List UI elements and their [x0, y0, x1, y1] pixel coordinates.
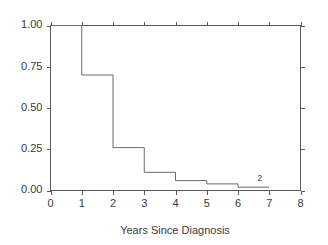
x-tick-label: 5 [204, 197, 210, 209]
survival-step-curve [51, 26, 270, 188]
censor-count-label: 2 [257, 173, 262, 183]
survival-chart-figure: 012345678 0.000.250.500.751.00 2 Years S… [0, 0, 328, 245]
axes-box-spines [51, 26, 301, 191]
y-tick-label: 0.25 [21, 142, 42, 154]
x-tick-label: 6 [235, 197, 241, 209]
chart-annotations: 2 [257, 173, 262, 183]
x-tick-label: 7 [266, 197, 272, 209]
x-axis-tick-marks [52, 191, 302, 195]
y-tick-label: 0.50 [21, 101, 42, 113]
x-tick-label: 8 [297, 197, 303, 209]
x-axis-tick-marks-top [52, 22, 302, 26]
y-tick-label: 1.00 [21, 18, 42, 30]
y-tick-label: 0.75 [21, 60, 42, 72]
survival-plot-svg: 012345678 0.000.250.500.751.00 2 Years S… [0, 0, 328, 245]
x-axis-title: Years Since Diagnosis [120, 224, 230, 236]
x-tick-label: 4 [172, 197, 178, 209]
y-axis-tick-marks-right [301, 27, 305, 192]
y-axis-tick-labels: 0.000.250.500.751.00 [21, 18, 42, 195]
x-tick-label: 3 [141, 197, 147, 209]
x-tick-label: 0 [47, 197, 53, 209]
x-axis-tick-labels: 012345678 [47, 197, 303, 209]
y-tick-label: 0.00 [21, 183, 42, 195]
x-tick-label: 2 [110, 197, 116, 209]
x-tick-label: 1 [79, 197, 85, 209]
plot-frame [51, 26, 301, 191]
y-axis-tick-marks [47, 27, 51, 192]
